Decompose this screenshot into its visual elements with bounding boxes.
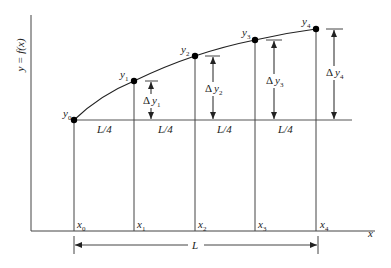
length-label: L: [191, 239, 198, 251]
x-axis-label: x: [367, 227, 373, 239]
point-y2: [192, 53, 198, 59]
point-y1: [131, 78, 137, 84]
label-y4: y4: [301, 15, 311, 30]
label-y2: y2: [180, 43, 190, 58]
point-y3: [252, 37, 258, 43]
point-y0: [71, 117, 77, 123]
segment-label-1: L/4: [96, 123, 112, 135]
y-axis-label: y = f(x): [14, 38, 27, 72]
label-y3: y3: [241, 26, 251, 41]
point-y4: [313, 26, 319, 32]
segment-label-3: L/4: [216, 123, 232, 135]
label-y0: y0: [62, 107, 72, 122]
segment-label-2: L/4: [157, 123, 173, 135]
segment-label-4: L/4: [277, 123, 293, 135]
label-y1: y1: [119, 68, 129, 83]
trapezoid-rule-diagram: y = f(x) x y0 y1 y2 y3 y4 L/4 L/4 L/4 L/…: [0, 0, 391, 268]
